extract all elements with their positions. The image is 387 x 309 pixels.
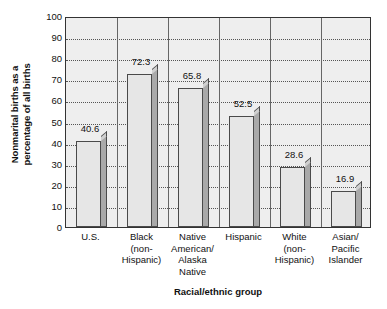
bar-value-label: 16.9 [322, 174, 368, 184]
y-axis-title: Nonmarital births as a percentage of all… [0, 0, 40, 228]
bar[interactable]: 72.3 [127, 69, 158, 227]
y-axis-tick-label: 60 [38, 96, 62, 106]
y-axis-tick-label: 80 [38, 54, 62, 64]
bar-side-face [101, 136, 107, 227]
bar[interactable]: 65.8 [178, 83, 209, 227]
bar[interactable]: 28.6 [280, 162, 311, 227]
bar-value-label: 40.6 [67, 124, 113, 134]
bar[interactable]: 16.9 [331, 186, 362, 227]
bar[interactable]: 52.5 [229, 111, 260, 227]
bar-side-face [152, 69, 158, 227]
bar-value-label: 65.8 [169, 71, 215, 81]
x-axis-tick-label-line: Alaska [167, 254, 218, 266]
x-axis-tick-label-line: (non- [269, 243, 320, 255]
x-axis-tick-label-line: Black [116, 231, 167, 243]
x-axis-tick-label: White(non-Hispanic) [269, 231, 320, 266]
bar-front-face [127, 74, 152, 227]
x-axis-tick-label-line: Native [167, 231, 218, 243]
x-axis-tick-label: NativeAmerican/AlaskaNative [167, 231, 218, 277]
x-axis-tick-label: Black(non-Hispanic) [116, 231, 167, 266]
bar-value-label: 52.5 [220, 99, 266, 109]
bar-side-face [203, 83, 209, 227]
y-axis-title-line-2: percentage of all births [20, 63, 32, 165]
y-axis-tick-label: 40 [38, 139, 62, 149]
x-axis-tick-label-line: Pacific [320, 243, 371, 255]
x-axis-tick-label-line: Hispanic [218, 231, 269, 243]
x-axis-tick-label-line: Native [167, 266, 218, 278]
bar[interactable]: 40.6 [76, 136, 107, 227]
y-axis-tick-label: 10 [38, 202, 62, 212]
x-axis-tick-labels: U.S.Black(non-Hispanic)NativeAmerican/Al… [65, 231, 371, 293]
y-axis-tick-label: 20 [38, 181, 62, 191]
bar-front-face [178, 88, 203, 227]
bars-layer: 40.672.365.852.528.616.9 [66, 18, 370, 227]
bar-value-label: 72.3 [118, 57, 164, 67]
bar-front-face [280, 167, 305, 227]
bar-chart: Nonmarital births as a percentage of all… [0, 0, 387, 309]
bar-front-face [331, 191, 356, 227]
bar-front-face [229, 116, 254, 227]
x-axis-tick-label-line: Hispanic) [116, 254, 167, 266]
x-axis-tick-label-line: U.S. [65, 231, 116, 243]
y-axis-tick-label: 50 [38, 118, 62, 128]
y-axis-tick-label: 70 [38, 75, 62, 85]
x-axis-tick-label-line: Hispanic) [269, 254, 320, 266]
bar-value-label: 28.6 [271, 150, 317, 160]
x-axis-tick-label: U.S. [65, 231, 116, 243]
y-axis-tick-label: 0 [38, 223, 62, 233]
y-axis-title-line-1: Nonmarital births as a [9, 63, 21, 165]
y-axis-tick-label: 100 [38, 12, 62, 22]
x-axis-tick-label-line: Asian/ [320, 231, 371, 243]
y-axis-tick-labels: 1009080706050403020100 [38, 17, 62, 228]
bar-side-face [305, 162, 311, 227]
y-axis-tick-label: 90 [38, 33, 62, 43]
y-axis-tick-label: 30 [38, 160, 62, 170]
x-axis-tick-label-line: American/ [167, 243, 218, 255]
bar-side-face [254, 111, 260, 227]
plot-area: 40.672.365.852.528.616.9 [65, 17, 371, 228]
x-axis-title: Racial/ethnic group [65, 286, 371, 297]
x-axis-tick-label: Hispanic [218, 231, 269, 243]
x-axis-tick-label-line: (non- [116, 243, 167, 255]
bar-front-face [76, 141, 101, 227]
x-axis-tick-label-line: Islander [320, 254, 371, 266]
x-axis-tick-label-line: White [269, 231, 320, 243]
x-axis-tick-label: Asian/PacificIslander [320, 231, 371, 266]
bar-side-face [356, 186, 362, 227]
